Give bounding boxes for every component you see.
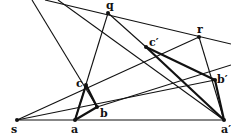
edge-cprime-bprime (146, 47, 215, 80)
label-aprime: a′ (221, 124, 231, 135)
desargues-figure (0, 0, 231, 140)
line-s-b-bprime (17, 80, 215, 120)
label-s: s (11, 124, 17, 135)
label-q: q (106, 0, 114, 11)
line-q-cprime (108, 13, 146, 47)
label-a: a (71, 124, 78, 135)
point-a (73, 118, 77, 122)
label-bprime: b′ (217, 74, 228, 85)
line-b-extension (97, 65, 231, 107)
label-r: r (197, 24, 203, 35)
point-s (15, 118, 19, 122)
line-s-c-r (17, 37, 199, 120)
line-top-c-b (32, 0, 97, 107)
label-b: b (100, 108, 108, 119)
edge-cprime-aprime (146, 47, 224, 120)
point-b (95, 105, 99, 109)
point-aprime (222, 118, 226, 122)
point-c (84, 83, 88, 87)
label-cprime: c′ (149, 37, 159, 48)
line-q-r (45, 0, 231, 44)
edge-c-b (86, 85, 97, 107)
line-top-cprime-aprime (58, 0, 224, 120)
point-cprime (144, 45, 148, 49)
label-c: c (76, 78, 83, 89)
diagram-canvas: s a b c a′ b′ c′ q r (0, 0, 231, 140)
